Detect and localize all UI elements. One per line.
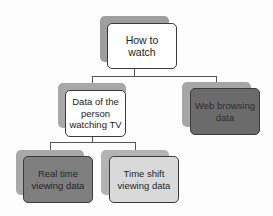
real-time-node[interactable]: Real time viewing data	[23, 156, 93, 203]
time-shift-node-label: Time shift viewing data	[113, 168, 175, 192]
web-browsing-node[interactable]: Web browsing data	[190, 88, 260, 135]
connector-root-horizontal	[92, 76, 217, 77]
person-data-node-label: Data of the person watching TV	[69, 96, 122, 131]
person-data-node[interactable]: Data of the person watching TV	[65, 90, 126, 137]
web-browsing-node-label: Web browsing data	[194, 100, 256, 124]
connector-person-horizontal	[50, 142, 136, 143]
real-time-node-label: Real time viewing data	[27, 168, 89, 192]
root-node-label: How to watch	[111, 34, 173, 58]
time-shift-node[interactable]: Time shift viewing data	[109, 156, 179, 203]
root-node-how-to-watch[interactable]: How to watch	[107, 23, 177, 69]
diagram-canvas: How to watch Data of the person watching…	[0, 0, 273, 216]
